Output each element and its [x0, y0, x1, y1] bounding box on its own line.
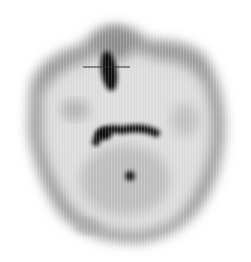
scanline-texture [0, 0, 251, 262]
scan-image [0, 0, 251, 262]
